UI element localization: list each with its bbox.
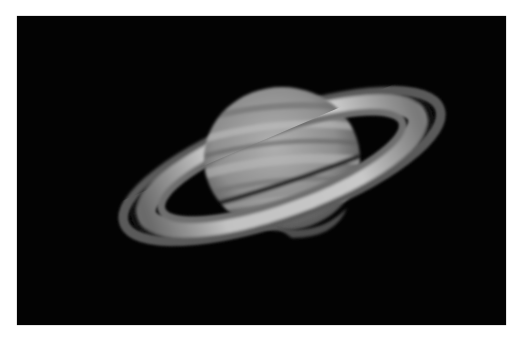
photo-frame: Telescope photograph of the planet Satur…: [17, 16, 506, 325]
saturn-image: [17, 16, 506, 325]
